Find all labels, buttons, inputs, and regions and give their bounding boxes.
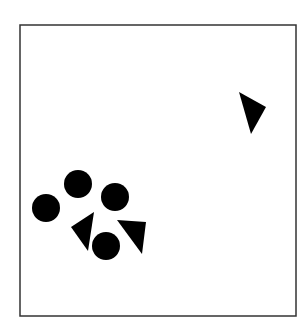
frame-border <box>20 25 296 316</box>
circle-3 <box>101 183 129 211</box>
triangle-top-right <box>239 92 266 134</box>
circle-2 <box>32 194 60 222</box>
diagram-canvas <box>0 0 307 320</box>
triangle-left <box>71 212 94 251</box>
shapes-group <box>32 92 266 260</box>
circle-4 <box>92 232 120 260</box>
triangle-right <box>117 220 146 254</box>
circle-1 <box>64 170 92 198</box>
